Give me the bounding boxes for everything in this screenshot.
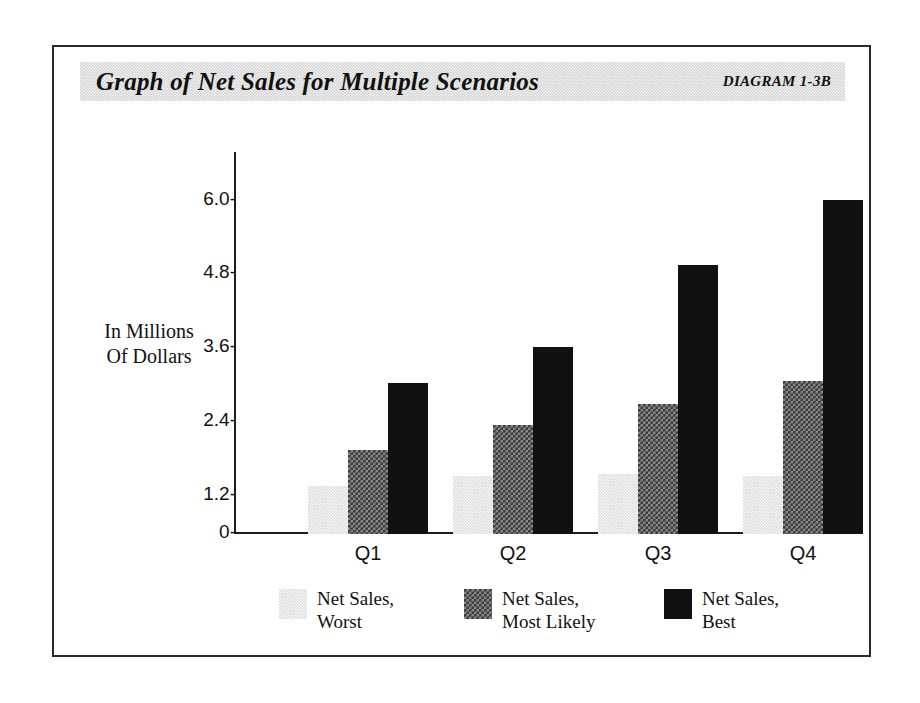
y-tick-3-6: 3.6- bbox=[172, 335, 236, 357]
legend-label-most-likely-line-1: Net Sales, bbox=[502, 587, 595, 610]
y-tick-4-8: 4.8- bbox=[172, 261, 236, 283]
x-tick-q1: Q1 bbox=[308, 542, 428, 565]
bar-q4-best[interactable] bbox=[823, 200, 863, 534]
bar-q2-most-likely[interactable] bbox=[493, 425, 533, 534]
legend-swatch-best-icon bbox=[664, 589, 692, 619]
bar-group-q2 bbox=[453, 47, 573, 534]
x-tick-q4: Q4 bbox=[743, 542, 863, 565]
y-axis-tick-labels: 6.0- 4.8- 3.6- 2.4- 1.2- 0- bbox=[172, 47, 236, 655]
legend-label-most-likely-line-2: Most Likely bbox=[502, 610, 595, 633]
legend-label-best-line-2: Best bbox=[702, 610, 779, 633]
plot-area: In Millions Of Dollars 6.0- 4.8- 3.6- 2.… bbox=[54, 47, 869, 655]
bar-group-q3 bbox=[598, 47, 718, 534]
legend-label-best-line-1: Net Sales, bbox=[702, 587, 779, 610]
legend-item-best[interactable]: Net Sales, Best bbox=[664, 587, 779, 633]
legend-swatch-worst-icon bbox=[279, 589, 307, 619]
bar-group-q1 bbox=[308, 47, 428, 534]
y-tick-2-4: 2.4- bbox=[172, 409, 236, 431]
figure-frame: Graph of Net Sales for Multiple Scenario… bbox=[52, 45, 871, 657]
legend-label-best: Net Sales, Best bbox=[702, 587, 779, 633]
bar-q1-most-likely[interactable] bbox=[348, 450, 388, 534]
x-axis-tick-labels: Q1 Q2 Q3 Q4 bbox=[236, 542, 842, 572]
bars-layer bbox=[236, 47, 842, 534]
legend-label-worst: Net Sales, Worst bbox=[317, 587, 394, 633]
bar-q3-best[interactable] bbox=[678, 265, 718, 534]
bar-q3-worst[interactable] bbox=[598, 474, 638, 534]
y-tick-1-2: 1.2- bbox=[172, 483, 236, 505]
bar-q2-worst[interactable] bbox=[453, 476, 493, 534]
bar-q2-best[interactable] bbox=[533, 347, 573, 534]
legend-label-worst-line-2: Worst bbox=[317, 610, 394, 633]
legend-item-worst[interactable]: Net Sales, Worst bbox=[279, 587, 394, 633]
legend-label-worst-line-1: Net Sales, bbox=[317, 587, 394, 610]
bar-q3-most-likely[interactable] bbox=[638, 404, 678, 534]
y-tick-6-0: 6.0- bbox=[172, 188, 236, 210]
x-tick-q3: Q3 bbox=[598, 542, 718, 565]
bar-q1-best[interactable] bbox=[388, 383, 428, 534]
legend-swatch-most-likely-icon bbox=[464, 589, 492, 619]
bar-q1-worst[interactable] bbox=[308, 486, 348, 534]
legend-item-most-likely[interactable]: Net Sales, Most Likely bbox=[464, 587, 595, 633]
bar-q4-worst[interactable] bbox=[743, 476, 783, 534]
legend-label-most-likely: Net Sales, Most Likely bbox=[502, 587, 595, 633]
bar-group-q4 bbox=[743, 47, 863, 534]
x-tick-q2: Q2 bbox=[453, 542, 573, 565]
bar-q4-most-likely[interactable] bbox=[783, 381, 823, 534]
y-tick-0: 0- bbox=[172, 521, 236, 543]
chart-legend: Net Sales, Worst Net Sales, Most Likely … bbox=[219, 587, 839, 647]
